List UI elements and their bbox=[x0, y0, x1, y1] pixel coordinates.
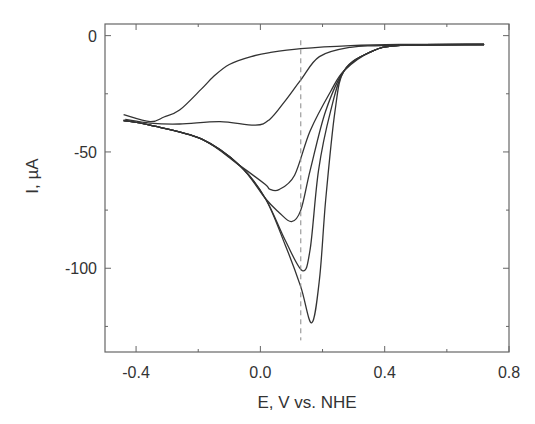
trace-scan-6 bbox=[124, 45, 485, 323]
x-axis-label: E, V vs. NHE bbox=[257, 393, 356, 412]
x-tick-label: 0.0 bbox=[249, 364, 271, 381]
y-tick-label: -50 bbox=[74, 144, 97, 161]
plot-frame bbox=[105, 24, 509, 352]
y-tick-label: 0 bbox=[88, 28, 97, 45]
y-tick-labels: 0-50-100 bbox=[65, 28, 97, 278]
y-axis-label: I, µA bbox=[23, 158, 42, 194]
trace-scan-1 bbox=[124, 44, 485, 121]
x-tick-label: -0.4 bbox=[122, 364, 150, 381]
trace-scan-5 bbox=[124, 45, 485, 271]
x-tick-label: 0.8 bbox=[498, 364, 520, 381]
axis-ticks bbox=[105, 24, 509, 352]
cyclic-voltammogram-chart: -0.40.00.40.8 0-50-100 E, V vs. NHE I, µ… bbox=[0, 0, 535, 424]
x-tick-label: 0.4 bbox=[374, 364, 396, 381]
trace-scan-3 bbox=[124, 45, 485, 191]
y-tick-label: -100 bbox=[65, 260, 97, 277]
plot-lines bbox=[124, 44, 485, 323]
trace-scan-2 bbox=[125, 45, 484, 126]
x-tick-labels: -0.40.00.40.8 bbox=[122, 364, 520, 381]
trace-scan-4 bbox=[124, 45, 485, 222]
